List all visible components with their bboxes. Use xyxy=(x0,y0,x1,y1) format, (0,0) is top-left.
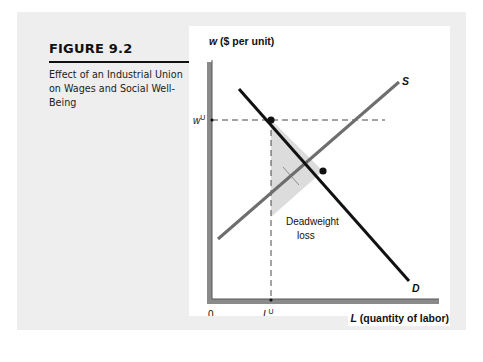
figure-number: FIGURE 9.2 xyxy=(49,41,195,63)
equilibrium-point xyxy=(319,167,326,174)
x-axis xyxy=(207,299,439,304)
demand-label: D xyxy=(412,282,420,294)
y-axis-label: w ($ per unit) xyxy=(209,35,274,47)
figure-description: Effect of an Industrial Union on Wages a… xyxy=(49,68,195,110)
figure-caption: FIGURE 9.2 Effect of an Industrial Union… xyxy=(49,41,195,110)
union-wage-label: wU xyxy=(193,114,205,126)
union-wage-point xyxy=(267,116,274,123)
y-axis xyxy=(207,62,212,304)
union-labor-label: LU xyxy=(263,308,274,316)
supply-label: S xyxy=(402,75,409,87)
supply-demand-chart: w ($ per unit) wU S D Deadweight loss 0 … xyxy=(189,26,450,316)
dwl-label-line1: Deadweight xyxy=(286,216,339,227)
demand-curve xyxy=(239,89,409,281)
chart-panel: w ($ per unit) wU S D Deadweight loss 0 … xyxy=(189,26,450,316)
origin-label: 0 xyxy=(208,309,214,316)
dwl-label-line2: loss xyxy=(297,230,315,241)
